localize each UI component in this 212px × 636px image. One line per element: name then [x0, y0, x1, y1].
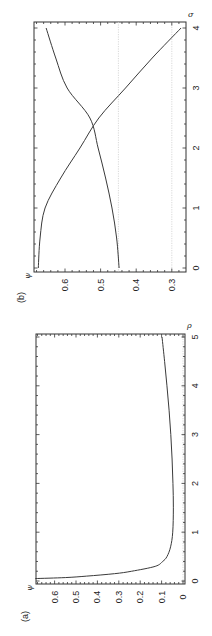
- x-tick-label: 5: [190, 334, 200, 339]
- data-curve: [46, 28, 119, 268]
- y-tick-label: 0.4: [92, 591, 102, 604]
- x-tick-label: 4: [191, 25, 201, 30]
- x-tick-label: 4: [190, 383, 200, 388]
- x-tick-label: 0: [190, 578, 200, 583]
- panel-b: 01234 0.30.40.50.6 σ ψ (b): [16, 10, 201, 303]
- y-tick-label: 0.5: [71, 591, 81, 604]
- figure: 01234 0.30.40.50.6 σ ψ (b) 012345 00.10.…: [0, 0, 212, 636]
- panel-b-reference-lines: [118, 22, 171, 272]
- x-tick-label: 1: [191, 205, 201, 210]
- panel-a-psi-tick-labels: 00.10.20.30.40.50.6: [50, 591, 188, 604]
- x-tick-label: 2: [191, 145, 201, 150]
- panel-a-frame: [36, 334, 185, 584]
- y-tick-label: 0.4: [131, 279, 141, 292]
- y-tick-label: 0.1: [157, 591, 167, 604]
- panel-b-xlabel: σ: [188, 10, 194, 19]
- y-tick-label: 0.5: [96, 279, 106, 292]
- panel-b-psi-tick-labels: 0.30.40.50.6: [60, 279, 177, 292]
- y-tick-label: 0.3: [167, 279, 177, 292]
- panel-a-label: (a): [20, 611, 30, 622]
- panel-b-label: (b): [16, 292, 26, 303]
- panel-b-sigma-tick-labels: 01234: [191, 25, 201, 270]
- panel-b-ticks: [34, 22, 186, 272]
- panel-a-xlabel: ρ: [186, 321, 192, 330]
- x-tick-label: 1: [190, 530, 200, 535]
- x-tick-label: 3: [191, 85, 201, 90]
- y-tick-label: 0: [178, 594, 188, 599]
- panel-a: 012345 00.10.20.30.40.50.6 ρ ψ (a): [20, 321, 200, 622]
- panel-a-ylabel: ψ: [25, 584, 34, 591]
- x-tick-label: 0: [191, 265, 201, 270]
- x-tick-label: 3: [190, 432, 200, 437]
- panel-b-frame: [34, 22, 186, 272]
- y-tick-label: 0.2: [135, 591, 145, 604]
- data-curve: [38, 28, 181, 268]
- y-tick-label: 0.6: [50, 591, 60, 604]
- y-tick-label: 0.6: [60, 279, 70, 292]
- y-tick-label: 0.3: [114, 591, 124, 604]
- panel-b-curves: [38, 28, 181, 268]
- panel-b-ylabel: ψ: [23, 272, 32, 279]
- data-curve: [35, 337, 173, 579]
- x-tick-label: 2: [190, 481, 200, 486]
- panel-a-curves: [35, 337, 173, 579]
- panel-a-rho-tick-labels: 012345: [190, 334, 200, 583]
- panel-a-ticks: [36, 334, 185, 584]
